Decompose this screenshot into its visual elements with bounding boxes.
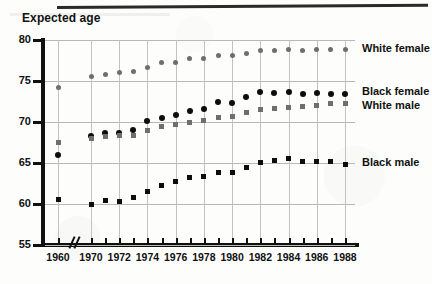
data-point bbox=[257, 89, 263, 95]
x-axis-tick bbox=[345, 238, 347, 245]
y-axis-tick-label: 55 bbox=[19, 238, 31, 250]
data-point bbox=[230, 53, 235, 58]
page-top-rule bbox=[57, 4, 428, 9]
data-point bbox=[314, 90, 320, 96]
data-point bbox=[286, 47, 291, 52]
data-point bbox=[314, 47, 319, 52]
data-point bbox=[258, 107, 263, 112]
data-point bbox=[215, 99, 221, 105]
scanned-page: Expected age 556065707580 19601970197219… bbox=[0, 0, 432, 284]
data-point bbox=[300, 91, 306, 97]
y-axis-tick bbox=[33, 203, 42, 206]
data-point bbox=[117, 199, 122, 204]
data-point bbox=[343, 101, 348, 106]
x-axis-tick bbox=[218, 238, 220, 245]
data-point bbox=[272, 106, 277, 111]
data-point bbox=[272, 48, 277, 53]
legend-label: Black male bbox=[362, 156, 419, 168]
gridline-vertical bbox=[176, 40, 177, 245]
data-point bbox=[229, 100, 235, 106]
y-axis-tick-label: 70 bbox=[19, 115, 31, 127]
data-point bbox=[103, 72, 108, 77]
gridline-vertical bbox=[147, 40, 148, 245]
x-axis-tick bbox=[289, 238, 291, 245]
gridline-vertical bbox=[260, 40, 261, 245]
data-point bbox=[258, 48, 263, 53]
gridline-vertical bbox=[204, 40, 205, 245]
data-point bbox=[56, 85, 61, 90]
data-point bbox=[244, 165, 249, 170]
data-point bbox=[173, 60, 178, 65]
x-axis-tick-label: 1972 bbox=[108, 251, 131, 263]
data-point bbox=[343, 47, 348, 52]
data-point bbox=[271, 90, 277, 96]
gridline-vertical bbox=[91, 40, 92, 245]
x-axis-tick-label: 1970 bbox=[79, 251, 102, 263]
data-point bbox=[201, 118, 206, 123]
gridline-horizontal bbox=[45, 245, 355, 246]
data-point bbox=[173, 122, 178, 127]
data-point bbox=[286, 156, 291, 161]
x-axis-tick bbox=[303, 238, 305, 245]
data-point bbox=[159, 115, 165, 121]
data-point bbox=[159, 183, 164, 188]
data-point bbox=[314, 159, 319, 164]
data-point bbox=[173, 112, 179, 118]
plot-area bbox=[45, 40, 355, 245]
data-point bbox=[300, 48, 305, 53]
x-axis-tick-label: 1982 bbox=[249, 251, 272, 263]
x-axis-tick bbox=[91, 238, 93, 245]
data-point bbox=[244, 110, 249, 115]
data-point bbox=[131, 69, 136, 74]
data-point bbox=[55, 152, 61, 158]
data-point bbox=[243, 94, 249, 100]
data-point bbox=[272, 158, 277, 163]
data-point bbox=[131, 195, 136, 200]
y-axis-tick-label: 65 bbox=[19, 156, 31, 168]
x-axis-tick-label: 1988 bbox=[333, 251, 356, 263]
data-point bbox=[89, 74, 94, 79]
x-axis-tick bbox=[260, 238, 262, 245]
x-axis-tick bbox=[190, 238, 192, 245]
y-axis-tick bbox=[33, 80, 42, 83]
data-point bbox=[216, 170, 221, 175]
legend-label: Black female bbox=[362, 85, 429, 97]
x-axis-tick bbox=[133, 238, 135, 245]
data-point bbox=[159, 60, 164, 65]
data-point bbox=[342, 91, 348, 97]
x-axis-tick bbox=[105, 238, 107, 245]
x-axis-tick-label: 1960 bbox=[46, 251, 69, 263]
data-point bbox=[89, 136, 94, 141]
data-point bbox=[230, 170, 235, 175]
x-axis-tick-label: 1980 bbox=[220, 251, 243, 263]
y-axis-tick bbox=[33, 162, 42, 165]
y-axis-tick bbox=[33, 121, 42, 124]
x-axis-tick-label: 1984 bbox=[277, 251, 300, 263]
x-axis-tick-label: 1986 bbox=[305, 251, 328, 263]
data-point bbox=[286, 105, 291, 110]
data-point bbox=[187, 108, 193, 114]
data-point bbox=[328, 101, 333, 106]
data-point bbox=[216, 115, 221, 120]
data-point bbox=[201, 174, 206, 179]
data-point bbox=[187, 120, 192, 125]
y-axis-labels: 556065707580 bbox=[0, 0, 31, 284]
data-point bbox=[300, 104, 305, 109]
page-title: Expected age bbox=[22, 11, 101, 25]
data-point bbox=[131, 133, 136, 138]
data-point bbox=[117, 70, 122, 75]
data-point bbox=[230, 114, 235, 119]
x-axis-tick bbox=[147, 238, 149, 245]
data-point bbox=[103, 198, 108, 203]
data-point bbox=[314, 103, 319, 108]
x-axis-tick bbox=[176, 238, 178, 245]
x-axis-tick bbox=[317, 238, 319, 245]
x-axis-tick-label: 1978 bbox=[192, 251, 215, 263]
data-point bbox=[328, 159, 333, 164]
data-point bbox=[173, 179, 178, 184]
data-point bbox=[328, 47, 333, 52]
gridline-vertical bbox=[317, 40, 318, 245]
data-point bbox=[103, 134, 108, 139]
data-point bbox=[145, 128, 150, 133]
y-axis-tick bbox=[33, 244, 42, 247]
